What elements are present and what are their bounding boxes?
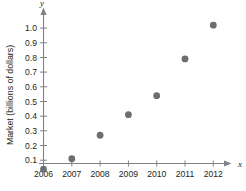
x-tick-label-2009: 2009: [119, 169, 138, 179]
x-axis-name: x: [237, 159, 242, 169]
y-axis-arrow-icon: [40, 8, 46, 16]
x-tick-label-2012: 2012: [204, 169, 223, 179]
chart-canvas: 0.1 0.2 0.3 0.4 0.5 0.6 0.7 0.8 0.9 1.0 …: [0, 0, 246, 191]
y-axis-title: Market (billions of dollars): [5, 45, 15, 145]
y-axis: [40, 8, 46, 164]
data-point-2009: [125, 111, 132, 118]
scatter-chart: 0.1 0.2 0.3 0.4 0.5 0.6 0.7 0.8 0.9 1.0 …: [0, 0, 246, 191]
x-axis-arrow-icon: [224, 160, 232, 166]
x-tick-labels: 2006 2007 2008 2009 2010 2011 2012: [34, 169, 223, 179]
y-tick-label-0.6: 0.6: [25, 82, 37, 92]
x-axis: [39, 160, 232, 166]
data-point-2011: [182, 56, 189, 63]
y-tick-label-0.3: 0.3: [25, 126, 37, 136]
y-tick-label-0.5: 0.5: [25, 97, 37, 107]
y-axis-name: y: [39, 0, 44, 8]
y-tick-label-0.9: 0.9: [25, 38, 37, 48]
data-point-2008: [97, 132, 104, 139]
data-points: [40, 22, 217, 173]
x-tick-label-2007: 2007: [62, 169, 81, 179]
y-tick-labels: 0.1 0.2 0.3 0.4 0.5 0.6 0.7 0.8 0.9 1.0: [25, 23, 37, 165]
y-tick-label-0.4: 0.4: [25, 111, 37, 121]
data-point-2007: [68, 155, 75, 162]
x-tick-label-2011: 2011: [176, 169, 195, 179]
data-point-2012: [210, 22, 217, 29]
y-tick-label-0.2: 0.2: [25, 141, 37, 151]
x-tick-label-2008: 2008: [91, 169, 110, 179]
x-tick-label-2010: 2010: [147, 169, 166, 179]
y-tick-label-0.1: 0.1: [25, 155, 37, 165]
y-tick-label-1.0: 1.0: [25, 23, 37, 33]
data-point-2010: [153, 92, 160, 99]
y-tick-label-0.8: 0.8: [25, 53, 37, 63]
data-point-2006: [40, 166, 47, 173]
y-tick-label-0.7: 0.7: [25, 67, 37, 77]
